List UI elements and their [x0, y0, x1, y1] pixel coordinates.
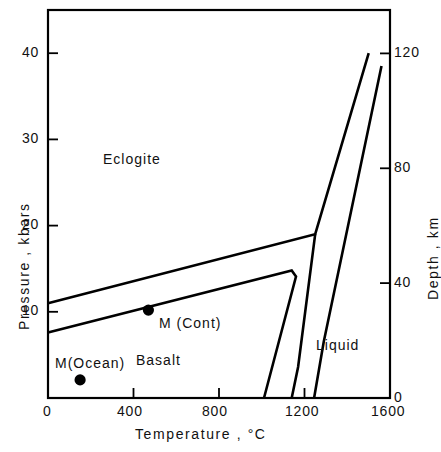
left-tick-label-30: 30	[22, 130, 39, 146]
bottom-tick-label-400: 400	[117, 403, 143, 419]
right-tick-label-80: 80	[394, 159, 411, 175]
bottom-tick-label-800: 800	[202, 403, 228, 419]
curve-eclogite-in	[48, 53, 369, 303]
region-label-eclogite: Eclogite	[103, 151, 161, 167]
right-tick-label-120: 120	[394, 44, 420, 60]
right-axis-title: Depth , km	[425, 216, 441, 300]
right-tick-label-40: 40	[394, 274, 411, 290]
region-label-basalt: Basalt	[136, 352, 181, 368]
phase-diagram-figure: 40 30 20 10 0 400 800 1200 1600 0 40 80 …	[0, 0, 441, 452]
marker-moho-oceanic[interactable]	[75, 374, 86, 385]
bottom-tick-label-1600: 1600	[371, 403, 405, 419]
left-tick-label-40: 40	[22, 44, 39, 60]
right-tick-label-0: 0	[394, 389, 403, 405]
marker-label-moho-continental: M (Cont)	[159, 315, 221, 331]
marker-label-moho-oceanic: M(Ocean)	[55, 355, 125, 371]
region-label-liquid: Liquid	[316, 337, 359, 353]
left-axis-title: Pressure , kbars	[16, 202, 32, 330]
curve-solidus	[292, 234, 316, 398]
bottom-axis-ticks	[134, 388, 305, 398]
marker-moho-continental[interactable]	[143, 305, 154, 316]
bottom-tick-label-0: 0	[43, 403, 52, 419]
right-axis-ticks	[380, 53, 390, 398]
left-axis-ticks	[48, 53, 58, 312]
plot-canvas	[0, 0, 441, 452]
bottom-tick-label-1200: 1200	[285, 403, 319, 419]
bottom-axis-title: Temperature , °C	[135, 426, 267, 442]
